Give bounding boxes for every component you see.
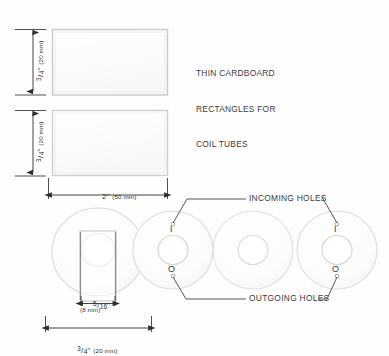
callout-outgoing-holes: OUTGOING HOLES	[249, 294, 329, 304]
inch-mark-inner: "	[107, 302, 109, 309]
cardboard-note: THIN CARDBOARD RECTANGLES FOR COIL TUBES	[196, 44, 276, 175]
dimension-width-label: 2"(50 mm)	[93, 184, 136, 211]
dimension-disc-width-label: 3/4"(20 mm)	[68, 337, 117, 356]
dimension-height-top-label: 3/4"(20 mm)	[27, 41, 55, 90]
washer-left-incoming-letter: I	[170, 224, 173, 235]
dimension-tube-inner-metric: (8 mm)	[80, 306, 100, 313]
fraction-three-quarters-top: 3/4	[36, 71, 46, 81]
cardboard-rectangle-top	[53, 30, 168, 96]
washer-right-outgoing-letter: O	[332, 264, 339, 275]
metric-bottom: (20 mm)	[37, 122, 44, 149]
width-metric: (50 mm)	[109, 193, 136, 200]
coil-tube-assembly	[52, 208, 144, 301]
cardboard-note-line-3: COIL TUBES	[196, 139, 276, 151]
diagram-vector-layer	[0, 0, 389, 356]
cardboard-rectangle-bottom	[53, 111, 168, 176]
cardboard-note-line-1: THIN CARDBOARD	[196, 68, 276, 80]
washer-right-incoming-letter: I	[334, 224, 337, 235]
diagram-canvas: THIN CARDBOARD RECTANGLES FOR COIL TUBES…	[0, 0, 389, 356]
fraction-three-quarters-bottom: 3/4	[36, 152, 46, 162]
washer-left-outgoing-letter: O	[168, 264, 175, 275]
washer-middle	[213, 211, 293, 289]
dimension-height-bottom-label: 3/4"(20 mm)	[27, 122, 55, 171]
callout-incoming-holes: INCOMING HOLES	[249, 194, 327, 204]
disc-metric: (20 mm)	[90, 347, 117, 354]
fraction-three-quarters-disc: 3/4	[77, 346, 87, 356]
metric-top: (20 mm)	[37, 41, 44, 68]
cardboard-note-line-2: RECTANGLES FOR	[196, 104, 276, 116]
